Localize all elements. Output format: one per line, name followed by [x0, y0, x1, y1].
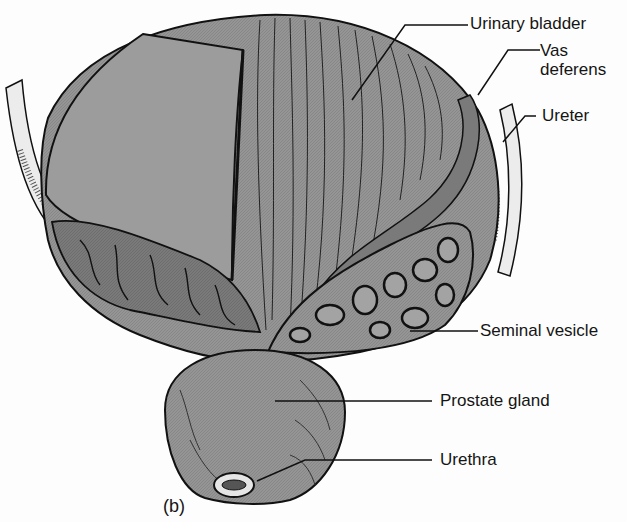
anatomy-figure: Urinary bladder Vas deferens Ureter Semi… [0, 0, 627, 522]
label-urethra: Urethra [440, 450, 497, 469]
label-prostate-gland: Prostate gland [440, 391, 550, 410]
panel-label: (b) [163, 497, 185, 516]
label-urinary-bladder: Urinary bladder [470, 14, 586, 33]
urethra-opening [214, 473, 254, 497]
label-seminal-vesicle: Seminal vesicle [480, 321, 598, 340]
label-ureter: Ureter [542, 106, 589, 125]
leader-vas-deferens [478, 50, 540, 95]
label-vas-deferens: Vas deferens [540, 41, 606, 79]
bladder-illustration [0, 0, 627, 522]
prostate-gland-shape [165, 350, 345, 504]
